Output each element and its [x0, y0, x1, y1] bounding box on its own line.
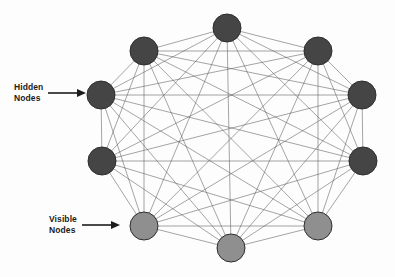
graph-edge — [144, 161, 363, 226]
graph-edge — [102, 28, 227, 161]
graph-node-hidden-top-right: Hidden Node 3 — [304, 37, 332, 65]
node-circle — [88, 147, 116, 175]
graph-edge — [227, 28, 363, 161]
graph-node-hidden-top-left: Hidden Node 2 — [130, 37, 158, 65]
graph-node-hidden-left: Hidden Node 4 — [87, 81, 115, 109]
node-circle — [213, 14, 241, 42]
graph-edge — [144, 51, 363, 161]
graph-edge — [231, 51, 318, 248]
graph-node-visible-bottom: Visible Node 2 — [217, 234, 245, 262]
network-graph: Hidden Node 1Hidden Node 2Hidden Node 3H… — [0, 0, 395, 277]
node-circle — [304, 37, 332, 65]
graph-edge — [227, 28, 362, 95]
graph-edge — [101, 95, 231, 248]
graph-node-hidden-lower-left: Hidden Node 6 — [88, 147, 116, 175]
graph-edge — [231, 95, 362, 248]
graph-edge — [102, 51, 318, 161]
node-circle — [217, 234, 245, 262]
graph-node-visible-lower-right: Visible Node 3 — [304, 212, 332, 240]
graph-node-hidden-lower-right: Hidden Node 7 — [349, 147, 377, 175]
node-circle — [130, 37, 158, 65]
graph-node-hidden-right: Hidden Node 5 — [348, 81, 376, 109]
boltzmann-machine-figure: Hidden Node 1Hidden Node 2Hidden Node 3H… — [0, 0, 395, 277]
node-circle — [348, 81, 376, 109]
node-circle — [87, 81, 115, 109]
graph-edge — [231, 161, 363, 248]
graph-edge — [101, 28, 227, 95]
node-circle — [304, 212, 332, 240]
graph-node-hidden-top: Hidden Node 1 — [213, 14, 241, 42]
node-circle — [349, 147, 377, 175]
graph-node-visible-lower-left: Visible Node 1 — [130, 212, 158, 240]
node-circle — [130, 212, 158, 240]
